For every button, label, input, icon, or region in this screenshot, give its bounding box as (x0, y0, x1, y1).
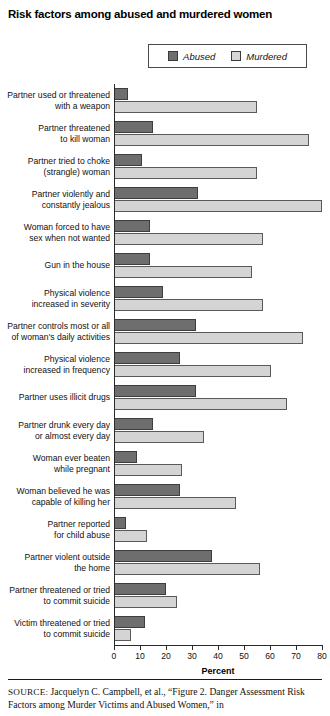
bar-row-label-line: sex when not wanted (29, 233, 110, 243)
x-axis-tick-label: 70 (291, 651, 301, 661)
bar-row-label-line: Gun in the house (45, 260, 110, 270)
bar-row-label-line: Physical violence (44, 288, 110, 298)
bar-abused (115, 583, 166, 595)
source-divider (8, 679, 322, 680)
chart-legend: Abused Murdered (148, 44, 307, 68)
bar-row-label-line: Partner violent outside (24, 552, 110, 562)
bar-murdered (115, 530, 147, 542)
bar-row-label-line: to commit suicide (44, 596, 110, 606)
bar-abused (115, 286, 163, 298)
bar-abused (115, 220, 150, 232)
bar-row: Partner uses illicit drugs (0, 381, 330, 414)
bar-row: Gun in the house (0, 249, 330, 282)
bar-abused (115, 616, 145, 628)
bar-abused (115, 319, 196, 331)
bar-abused (115, 484, 180, 496)
bar-row-label: Gun in the house (0, 249, 114, 282)
bar-row: Partner threatenedto kill woman (0, 117, 330, 150)
bar-murdered (115, 629, 131, 641)
bar-abused (115, 517, 126, 529)
bar-murdered (115, 167, 257, 179)
chart-page: Risk factors among abused and murdered w… (0, 0, 330, 716)
bar-row-label-line: Partner reported (47, 519, 110, 529)
bar-row: Physical violenceincreased in frequency (0, 348, 330, 381)
bar-row-label: Partner violently andconstantly jealous (0, 183, 114, 216)
legend-swatch-abused-icon (168, 51, 178, 61)
bar-row-bars (114, 414, 330, 447)
source-text: Jacquelyn C. Campbell, et al., “Figure 2… (8, 686, 305, 710)
x-axis-tick (114, 645, 115, 650)
bar-row-bars (114, 381, 330, 414)
bar-row: Woman ever beatenwhile pregnant (0, 447, 330, 480)
legend-label-abused: Abused (183, 51, 215, 62)
bar-abused (115, 154, 142, 166)
bar-row-label-line: Partner threatened or tried (9, 585, 110, 595)
bar-row-bars (114, 513, 330, 546)
bar-murdered (115, 200, 322, 212)
bar-row: Partner controls most or allof woman's d… (0, 315, 330, 348)
bar-row-label: Woman believed he wascapable of killing … (0, 480, 114, 513)
x-axis-tick (244, 645, 245, 650)
bar-row-label: Partner threatened or triedto commit sui… (0, 579, 114, 612)
bar-row-label: Physical violenceincreased in frequency (0, 348, 114, 381)
bar-murdered (115, 431, 204, 443)
bar-row-label: Woman ever beatenwhile pregnant (0, 447, 114, 480)
bar-row: Partner drunk every dayor almost every d… (0, 414, 330, 447)
bar-row-label: Partner reportedfor child abuse (0, 513, 114, 546)
bar-row-label-line: Partner drunk every day (18, 420, 110, 430)
legend-swatch-murdered-icon (231, 51, 241, 61)
bar-row-bars (114, 579, 330, 612)
bar-murdered (115, 233, 263, 245)
bar-row-label-line: Woman forced to have (24, 222, 110, 232)
bar-row-label: Partner threatenedto kill woman (0, 117, 114, 150)
bar-row: Partner threatened or triedto commit sui… (0, 579, 330, 612)
bar-murdered (115, 365, 271, 377)
bar-row-bars (114, 348, 330, 381)
source-note: SOURCE: Jacquelyn C. Campbell, et al., “… (8, 686, 324, 710)
x-axis-tick (166, 645, 167, 650)
bar-murdered (115, 101, 257, 113)
bar-row: Partner violently andconstantly jealous (0, 183, 330, 216)
bar-row-bars (114, 447, 330, 480)
bar-abused (115, 352, 180, 364)
bar-rows: Partner used or threatenedwith a weaponP… (0, 84, 330, 645)
x-axis-tick-label: 0 (112, 651, 117, 661)
bar-row-bars (114, 480, 330, 513)
bar-row-label-line: Physical violence (44, 354, 110, 364)
bar-row-label-line: Partner used or threatened (7, 90, 110, 100)
bar-row-label-line: Partner threatened (38, 123, 110, 133)
bar-abused (115, 550, 212, 562)
bar-row-label-line: Partner violently and (32, 189, 110, 199)
x-axis-tick (192, 645, 193, 650)
x-axis-tick-label: 60 (265, 651, 275, 661)
bar-row: Partner reportedfor child abuse (0, 513, 330, 546)
bar-row-label-line: of woman's daily activities (11, 332, 110, 342)
bar-row-bars (114, 150, 330, 183)
bar-murdered (115, 563, 260, 575)
bar-row: Victim threatened or triedto commit suic… (0, 612, 330, 645)
page-title: Risk factors among abused and murdered w… (8, 8, 322, 21)
bar-row-label: Woman forced to havesex when not wanted (0, 216, 114, 249)
x-axis-tick (296, 645, 297, 650)
bar-murdered (115, 497, 236, 509)
bar-row-label-line: or almost every day (35, 431, 110, 441)
bar-row: Woman believed he wascapable of killing … (0, 480, 330, 513)
bar-row: Woman forced to havesex when not wanted (0, 216, 330, 249)
bar-row-bars (114, 216, 330, 249)
x-axis-tick-label: 10 (135, 651, 145, 661)
bar-row-label-line: Woman believed he was (17, 486, 110, 496)
bar-abused (115, 88, 128, 100)
bar-row-label-line: Victim threatened or tried (14, 618, 110, 628)
x-axis-tick-labels: 01020304050607080 (114, 651, 322, 663)
bar-row: Partner used or threatenedwith a weapon (0, 84, 330, 117)
bar-row-label-line: capable of killing her (32, 497, 110, 507)
bar-row-bars (114, 183, 330, 216)
x-axis-tick-label: 40 (213, 651, 223, 661)
bar-row-label-line: (strangle) woman (44, 167, 110, 177)
bar-row-bars (114, 117, 330, 150)
bar-row-label: Partner used or threatenedwith a weapon (0, 84, 114, 117)
x-axis-tick-label: 30 (187, 651, 197, 661)
bar-row-label-line: Partner uses illicit drugs (19, 392, 110, 402)
legend-label-murdered: Murdered (246, 51, 287, 62)
bar-row-label-line: while pregnant (54, 464, 110, 474)
